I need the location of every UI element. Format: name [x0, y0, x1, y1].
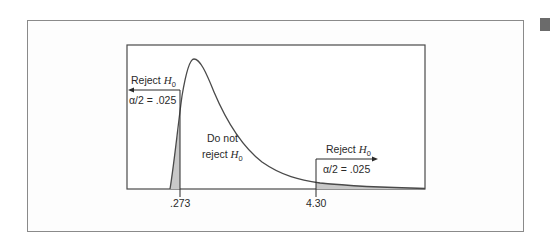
- left-alpha-label: α/2 = .025: [129, 94, 176, 106]
- do-not-label: Do not: [207, 132, 238, 144]
- right-alpha-label: α/2 = .025: [323, 163, 370, 175]
- tick-upper: 4.30: [306, 197, 327, 209]
- plot-area: [127, 45, 425, 189]
- f-distribution-chart: Reject H0 α/2 = .025 Do not reject H0 Re…: [0, 0, 550, 244]
- tick-lower: .273: [170, 197, 191, 209]
